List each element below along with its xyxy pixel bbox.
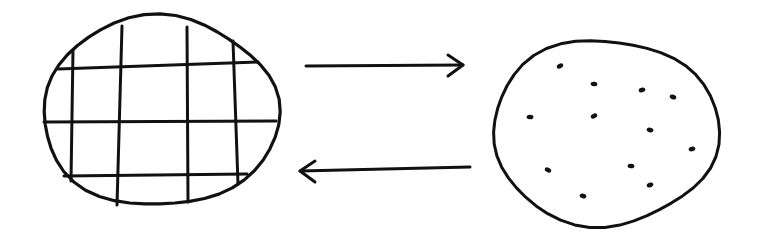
dot	[579, 193, 587, 199]
arrows	[300, 55, 470, 182]
grid-line-horizontal	[58, 62, 258, 69]
dot	[527, 115, 534, 120]
arrow-left-icon	[300, 161, 470, 182]
grid-line-vertical	[117, 26, 122, 205]
grid-line-horizontal	[64, 174, 247, 176]
dotted-circle-outline	[494, 41, 720, 228]
dotted-circle	[494, 41, 720, 228]
arrow-shaft	[300, 167, 470, 171]
dot	[590, 112, 598, 119]
arrow-shaft	[306, 65, 463, 66]
dot	[638, 87, 646, 93]
dot	[627, 164, 634, 169]
dot	[646, 182, 654, 189]
diagram-canvas	[0, 0, 760, 242]
dot	[646, 127, 654, 133]
grid-line-horizontal	[44, 121, 276, 122]
dots	[527, 62, 696, 199]
dot	[590, 81, 597, 86]
arrow-right-icon	[306, 55, 463, 76]
diagram-svg	[0, 0, 760, 242]
grid-circle	[44, 14, 280, 205]
dot	[669, 94, 677, 101]
grid-lines	[44, 26, 276, 205]
dot	[544, 166, 552, 173]
dot	[556, 62, 564, 69]
dot	[688, 146, 696, 152]
